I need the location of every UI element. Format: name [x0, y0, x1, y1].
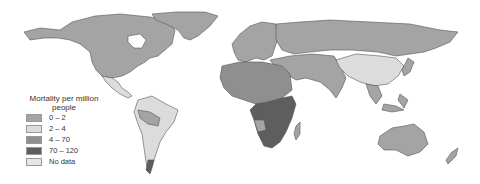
legend-label: 70 – 120	[49, 146, 78, 155]
legend-swatch	[26, 158, 42, 166]
legend-swatch	[26, 114, 42, 122]
legend-swatch	[26, 136, 42, 144]
region-north-africa	[220, 62, 292, 104]
region-china	[336, 54, 404, 86]
region-russia	[276, 20, 458, 56]
legend-swatch	[26, 147, 42, 155]
legend-swatch	[26, 125, 42, 133]
region-new-zealand	[446, 148, 458, 164]
region-southeast-asia	[366, 84, 408, 112]
legend-title-line1: Mortality per million	[24, 94, 104, 103]
region-japan	[402, 58, 414, 76]
region-angola	[254, 120, 266, 132]
legend-title-line2: people	[24, 103, 104, 112]
region-madagascar	[294, 122, 300, 140]
legend-item-no-data: No data	[26, 156, 124, 167]
legend-label: 0 – 2	[49, 113, 66, 122]
region-europe	[232, 22, 280, 62]
legend-item-70-120: 70 – 120	[26, 145, 124, 156]
legend-title: Mortality per million people	[24, 94, 104, 112]
legend-label: No data	[49, 157, 75, 166]
region-australia	[378, 124, 428, 156]
legend-item-2-4: 2 – 4	[26, 123, 124, 134]
legend-item-4-70: 4 – 70	[26, 134, 124, 145]
legend: Mortality per million people 0 – 2 2 – 4…	[24, 94, 124, 167]
region-south-america	[134, 96, 178, 172]
legend-item-0-2: 0 – 2	[26, 112, 124, 123]
legend-label: 4 – 70	[49, 135, 70, 144]
region-north-america	[24, 14, 175, 78]
legend-label: 2 – 4	[49, 124, 66, 133]
